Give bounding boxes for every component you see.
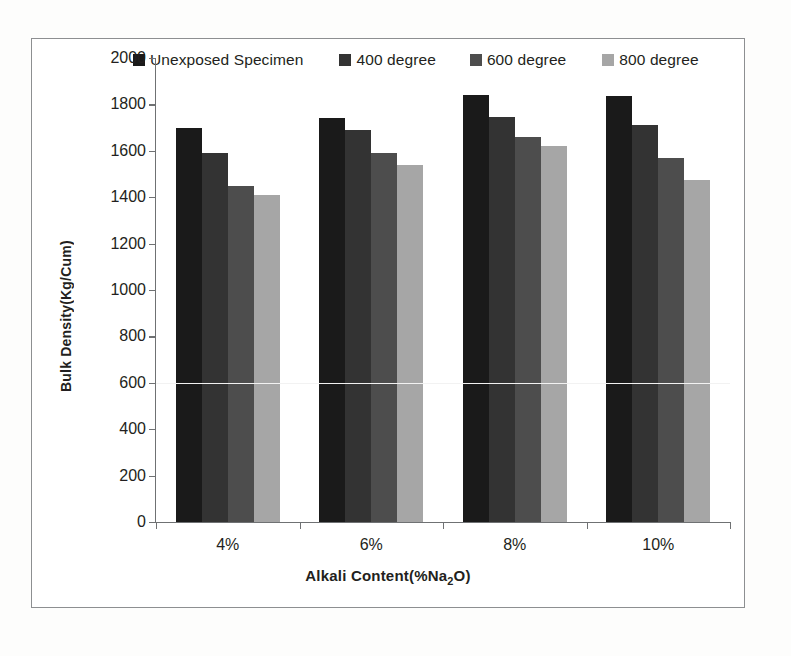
y-tick-mark: [149, 383, 155, 384]
y-tick-mark: [149, 197, 155, 198]
y-tick-label: 600: [119, 374, 146, 392]
bar: [684, 180, 710, 522]
bar-group: [176, 58, 280, 522]
x-axis-title: Alkali Content(%Na2O): [32, 567, 744, 587]
y-tick-mark: [149, 151, 155, 152]
bar: [319, 118, 345, 522]
y-tick-mark: [149, 522, 155, 523]
bar-group: [463, 58, 567, 522]
y-tick-mark: [149, 58, 155, 59]
bar: [371, 153, 397, 522]
y-tick-mark: [149, 476, 155, 477]
y-tick-mark: [149, 244, 155, 245]
x-tick-label: 10%: [642, 536, 674, 554]
bar-group: [319, 58, 423, 522]
bar: [345, 130, 371, 522]
bar: [397, 165, 423, 522]
chart-figure-frame: Unexposed Specimen 400 degree 600 degree…: [31, 38, 745, 608]
x-tick-mark: [443, 522, 444, 529]
y-tick-label: 1200: [110, 235, 146, 253]
bar: [606, 96, 632, 522]
x-tick-mark: [300, 522, 301, 529]
y-tick-label: 2000: [110, 49, 146, 67]
y-tick-label: 1600: [110, 142, 146, 160]
plot-wrapper: Bulk Density(Kg/Cum) 0200400600800100012…: [32, 39, 744, 607]
bar: [176, 128, 202, 522]
bar: [658, 158, 684, 522]
bar: [202, 153, 228, 522]
y-tick-mark: [149, 104, 155, 105]
y-tick-label: 1400: [110, 188, 146, 206]
x-tick-label: 8%: [503, 536, 526, 554]
bar: [489, 117, 515, 522]
x-tick-mark: [730, 522, 731, 529]
y-tick-label: 1000: [110, 281, 146, 299]
bar: [254, 195, 280, 522]
bar: [463, 95, 489, 522]
x-axis-title-tail: O): [454, 567, 471, 584]
plot-area: [156, 58, 730, 522]
x-tick-label: 4%: [216, 536, 239, 554]
bar: [228, 186, 254, 522]
bar-group: [606, 58, 710, 522]
y-tick-label: 200: [119, 467, 146, 485]
bar: [515, 137, 541, 522]
y-tick-label: 400: [119, 420, 146, 438]
x-tick-label: 6%: [360, 536, 383, 554]
y-tick-label: 800: [119, 327, 146, 345]
y-tick-mark: [149, 429, 155, 430]
y-axis-tick-labels: 0200400600800100012001400160018002000: [78, 39, 154, 607]
y-tick-label: 0: [137, 513, 146, 531]
y-axis-title: Bulk Density(Kg/Cum): [54, 191, 78, 441]
y-tick-label: 1800: [110, 95, 146, 113]
y-tick-mark: [149, 290, 155, 291]
x-tick-mark: [156, 522, 157, 529]
bar: [632, 125, 658, 522]
gridline: [156, 383, 730, 384]
y-tick-mark: [149, 336, 155, 337]
bar: [541, 146, 567, 522]
x-tick-mark: [587, 522, 588, 529]
x-axis-title-main: Alkali Content(%Na: [305, 567, 447, 584]
